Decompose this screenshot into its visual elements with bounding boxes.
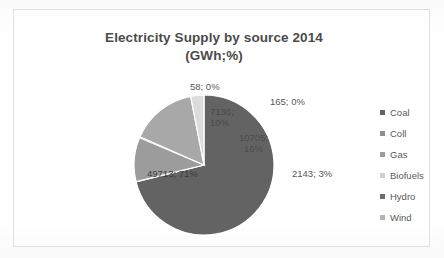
- chart-image: Electricity Supply by source 2014 (GWh;%…: [0, 0, 444, 258]
- legend-swatch-icon-biofuels: [380, 173, 385, 178]
- data-label-coal: 49713; 71%: [147, 168, 198, 179]
- legend-swatch-icon-gas: [380, 152, 385, 157]
- legend-swatch-icon-coal: [380, 110, 385, 115]
- data-label-wind: 2143; 3%: [292, 168, 332, 179]
- data-label-wind-text: 2143; 3%: [292, 168, 332, 179]
- data-label-gas-percent: 10%: [210, 117, 229, 128]
- legend-swatch-icon-hydro: [380, 194, 385, 199]
- legend-item-hydro[interactable]: Hydro: [380, 186, 440, 207]
- data-label-biofuels-text: 165; 0%: [270, 96, 305, 107]
- legend-label-gas: Gas: [390, 149, 407, 160]
- chart-title-line-2: (GWh;%): [54, 47, 374, 65]
- legend-label-coal: Coal: [390, 107, 410, 118]
- legend-label-hydro: Hydro: [390, 191, 415, 202]
- data-label-biofuels: 165; 0%: [270, 96, 305, 107]
- data-label-gas: 7136; 10%: [210, 106, 234, 128]
- data-label-coll: 58; 0%: [190, 81, 220, 92]
- legend-item-gas[interactable]: Gas: [380, 144, 440, 165]
- data-label-hydro-value: 10705;: [239, 132, 268, 143]
- legend-swatch-icon-coll: [380, 131, 385, 136]
- legend-item-coll[interactable]: Coll: [380, 123, 440, 144]
- chart-legend: Coal Coll Gas Biofuels Hydro Wind: [380, 102, 440, 228]
- legend-label-coll: Coll: [390, 128, 406, 139]
- legend-label-wind: Wind: [390, 212, 412, 223]
- data-label-hydro-percent: 16%: [244, 143, 263, 154]
- legend-swatch-icon-wind: [380, 215, 385, 220]
- chart-title-line-1: Electricity Supply by source 2014: [105, 30, 323, 45]
- legend-item-biofuels[interactable]: Biofuels: [380, 165, 440, 186]
- chart-title: Electricity Supply by source 2014 (GWh;%…: [54, 29, 374, 64]
- data-label-coal-text: 49713; 71%: [147, 168, 198, 179]
- chart-frame: Electricity Supply by source 2014 (GWh;%…: [13, 9, 430, 247]
- data-label-hydro: 10705; 16%: [239, 132, 268, 154]
- data-label-coll-text: 58; 0%: [190, 81, 220, 92]
- data-label-gas-value: 7136;: [210, 106, 234, 117]
- legend-label-biofuels: Biofuels: [390, 170, 424, 181]
- legend-item-wind[interactable]: Wind: [380, 207, 440, 228]
- legend-item-coal[interactable]: Coal: [380, 102, 440, 123]
